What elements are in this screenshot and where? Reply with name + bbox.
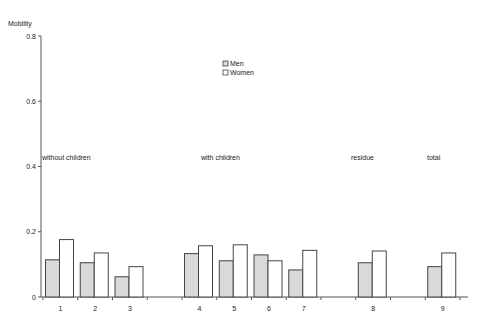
- group-label: residue: [351, 154, 374, 161]
- y-axis-label: Mobility: [8, 20, 32, 28]
- bar-men-3: [115, 277, 129, 297]
- x-tick-label: 8: [371, 305, 375, 312]
- y-tick-label: 0: [32, 294, 36, 301]
- x-tick-label: 1: [58, 305, 62, 312]
- y-tick-label: 0.4: [26, 163, 36, 170]
- x-tick-label: 2: [93, 305, 97, 312]
- bar-women-4: [199, 246, 213, 297]
- legend-swatch-women: [223, 70, 228, 75]
- x-tick-label: 5: [232, 305, 236, 312]
- bar-women-1: [60, 240, 74, 297]
- group-label: with children: [200, 154, 240, 161]
- bar-men-4: [185, 254, 199, 297]
- bar-women-3: [129, 267, 143, 297]
- mobility-bar-chart: Mobility00.20.40.60.8123456789without ch…: [0, 0, 483, 330]
- bar-men-5: [219, 261, 233, 297]
- bar-men-2: [80, 263, 94, 297]
- group-label: without children: [41, 154, 91, 161]
- x-tick-label: 4: [197, 305, 201, 312]
- y-tick-label: 0.2: [26, 228, 36, 235]
- bar-men-1: [46, 260, 60, 297]
- group-label: total: [427, 154, 441, 161]
- bar-women-7: [303, 250, 317, 297]
- x-tick-label: 7: [302, 305, 306, 312]
- x-tick-label: 6: [267, 305, 271, 312]
- bar-women-9: [442, 253, 456, 297]
- x-tick-label: 3: [128, 305, 132, 312]
- legend-swatch-men: [223, 61, 228, 66]
- y-tick-label: 0.8: [26, 33, 36, 40]
- legend-label-women: Women: [230, 69, 254, 76]
- legend-label-men: Men: [230, 60, 244, 67]
- bar-women-2: [94, 253, 108, 297]
- x-tick-label: 9: [441, 305, 445, 312]
- bar-women-6: [268, 261, 282, 297]
- bar-women-8: [372, 251, 386, 297]
- bar-men-8: [358, 263, 372, 297]
- bar-men-6: [254, 255, 268, 297]
- bar-men-9: [428, 267, 442, 297]
- y-tick-label: 0.6: [26, 98, 36, 105]
- bar-men-7: [289, 270, 303, 297]
- bar-women-5: [233, 245, 247, 297]
